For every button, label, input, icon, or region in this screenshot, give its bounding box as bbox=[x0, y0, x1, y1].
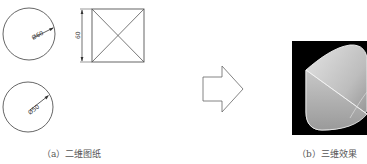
panel-a-2d-drawing: Ø60 60 Ø50 bbox=[3, 8, 144, 132]
panel-b-3d-render bbox=[292, 41, 367, 135]
bottom-circle-dimension: Ø50 bbox=[26, 103, 40, 116]
right-arrow-icon bbox=[203, 66, 243, 112]
bottom-circle-view: Ø50 bbox=[3, 82, 53, 132]
top-circle-dimension: Ø60 bbox=[30, 29, 44, 41]
square-view: 60 bbox=[74, 9, 144, 62]
square-dimension: 60 bbox=[74, 31, 81, 39]
caption-a: （a）二维图纸 bbox=[42, 147, 101, 160]
top-circle-view: Ø60 bbox=[3, 8, 55, 60]
caption-b: （b）三维效果 bbox=[297, 147, 357, 160]
figure-canvas: Ø60 60 Ø50 bbox=[0, 0, 367, 164]
